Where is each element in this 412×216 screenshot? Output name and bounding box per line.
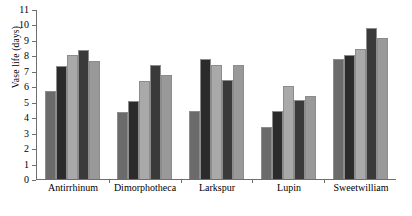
y-axis-tick-label: 5 — [5, 98, 29, 108]
bar-groups — [37, 10, 396, 179]
y-axis-tick-mark — [32, 56, 36, 57]
bar — [272, 111, 283, 179]
y-axis-tick-mark — [32, 149, 36, 150]
bar-group — [324, 10, 396, 179]
bar — [117, 112, 128, 179]
y-axis-tick-label: 9 — [5, 36, 29, 46]
bar — [261, 127, 272, 179]
y-axis-tick-mark — [32, 72, 36, 73]
x-axis-line — [36, 179, 396, 180]
bar-group — [37, 10, 109, 179]
bar — [233, 65, 244, 179]
y-axis-tick-label: 11 — [5, 5, 29, 15]
bar — [211, 65, 222, 179]
bar — [189, 111, 200, 179]
bar — [150, 65, 161, 179]
bar — [366, 28, 377, 179]
x-axis-category-label: Antirrhinum — [37, 182, 109, 193]
x-axis-category-label: Larkspur — [181, 182, 253, 193]
bar — [294, 100, 305, 179]
plot-area: 01234567891011 — [36, 10, 396, 180]
y-axis-tick-mark — [32, 87, 36, 88]
bar — [222, 80, 233, 179]
y-axis-tick-label: 6 — [5, 82, 29, 92]
y-axis-tick-label: 3 — [5, 129, 29, 139]
y-axis-tick-mark — [32, 41, 36, 42]
y-axis-tick-label: 0 — [5, 175, 29, 185]
x-axis-category-label: Sweetwilliam — [325, 182, 397, 193]
bar — [128, 101, 139, 179]
y-axis-tick-label: 4 — [5, 113, 29, 123]
bar — [56, 66, 67, 179]
bar — [78, 50, 89, 179]
y-axis-tick-label: 10 — [5, 20, 29, 30]
y-axis-tick-mark — [32, 165, 36, 166]
bar — [67, 55, 78, 179]
bar — [355, 49, 366, 179]
y-axis-tick-label: 2 — [5, 144, 29, 154]
bar-group — [181, 10, 253, 179]
bar — [377, 38, 388, 179]
y-axis-tick-label: 8 — [5, 51, 29, 61]
bar — [283, 86, 294, 180]
x-axis-labels: AntirrhinumDimorphothecaLarkspurLupinSwe… — [37, 182, 397, 193]
y-axis-tick-label: 1 — [5, 160, 29, 170]
x-axis-category-label: Dimorphotheca — [109, 182, 181, 193]
x-axis-category-label: Lupin — [253, 182, 325, 193]
y-axis-tick-mark — [32, 25, 36, 26]
bar — [344, 55, 355, 179]
y-axis-tick-mark — [32, 134, 36, 135]
bar-group — [252, 10, 324, 179]
bar — [45, 91, 56, 179]
bar — [139, 81, 150, 179]
bar — [89, 61, 100, 179]
bar — [161, 75, 172, 179]
y-axis-tick-mark — [32, 103, 36, 104]
bar-group — [109, 10, 181, 179]
y-axis-tick-label: 7 — [5, 67, 29, 77]
bar — [305, 96, 316, 179]
y-axis-tick-mark — [32, 10, 36, 11]
bar — [200, 59, 211, 179]
vase-life-bar-chart: Vase life (days) 01234567891011 Antirrhi… — [0, 0, 412, 216]
y-axis-tick-mark — [32, 118, 36, 119]
y-axis-tick-mark — [32, 180, 36, 181]
bar — [333, 59, 344, 179]
